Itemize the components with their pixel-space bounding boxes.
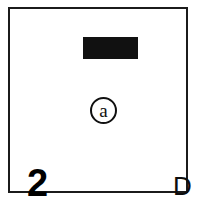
figure-panel: a 2 D	[0, 0, 197, 202]
panel-letter: D	[173, 173, 192, 199]
panel-frame: a 2 D	[8, 7, 188, 193]
circled-label-a: a	[90, 97, 117, 124]
panel-number: 2	[27, 164, 48, 202]
black-redaction-bar	[83, 37, 138, 59]
